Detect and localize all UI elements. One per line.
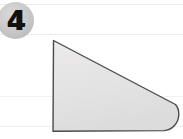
rounded-wedge-polygon bbox=[53, 41, 179, 132]
figure-canvas: 4 bbox=[0, 0, 183, 139]
badge-number-label: 4 bbox=[0, 2, 34, 39]
numbered-circle-badge: 4 bbox=[0, 2, 34, 39]
